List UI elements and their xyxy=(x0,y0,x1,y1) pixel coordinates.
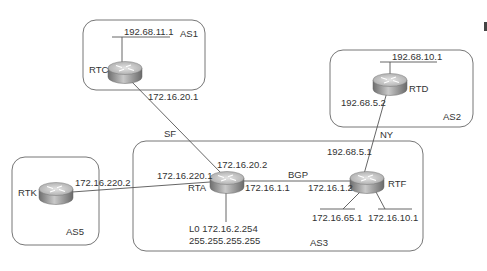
router-rtf-label: RTF xyxy=(388,179,406,189)
rtk-interface-ip: 172.16.220.2 xyxy=(75,178,130,188)
as5-label: AS5 xyxy=(66,227,84,237)
router-rtc-label: RTC xyxy=(89,65,108,75)
rtf-ny-interface-ip: 192.68.5.1 xyxy=(327,147,372,157)
network-diagram: AS1 AS2 AS3 AS5 RTC RTD RTA RTF RTK 192.… xyxy=(0,0,487,271)
router-rta-icon xyxy=(210,172,244,194)
as3-label: AS3 xyxy=(310,238,328,248)
router-rtd-label: RTD xyxy=(409,84,428,94)
link-bgp-label: BGP xyxy=(288,170,308,180)
router-rtd-icon xyxy=(373,74,407,96)
rta-bgp-interface-ip: 172.16.1.1 xyxy=(245,183,290,193)
router-rtk-label: RTK xyxy=(18,188,37,198)
rtf-bgp-interface-ip: 172.16.1.2 xyxy=(308,183,353,193)
router-rtf-icon xyxy=(350,172,384,194)
rta-rtk-interface-ip: 172.16.220.1 xyxy=(157,171,212,181)
rtf-lan2-address: 172.16.10.1 xyxy=(368,213,418,223)
rtf-lan1-drop xyxy=(343,192,360,209)
rtd-interface-ip: 192.68.5.2 xyxy=(341,98,386,108)
router-rtk-icon xyxy=(39,183,73,205)
rtf-lan2-drop xyxy=(376,192,385,209)
rta-sf-interface-ip: 172.16.20.2 xyxy=(217,160,267,170)
as2-label: AS2 xyxy=(443,112,461,122)
rtc-lan-address: 192.68.11.1 xyxy=(124,27,173,37)
rtc-interface-ip: 172.16.20.1 xyxy=(148,92,198,102)
rta-loopback-address: L0 172.16.2.254 xyxy=(189,224,258,234)
as3-boundary xyxy=(133,141,423,251)
rtd-lan-address: 192.68.10.1 xyxy=(392,52,442,62)
link-ny-label: NY xyxy=(380,130,393,140)
link-sf-label: SF xyxy=(164,129,176,139)
rtf-lan1-address: 172.16.65.1 xyxy=(312,213,362,223)
router-rtc-icon xyxy=(108,62,142,84)
rta-loopback-mask: 255.255.255.255 xyxy=(189,236,260,246)
as1-label: AS1 xyxy=(180,29,198,39)
router-rta-label: RTA xyxy=(188,183,206,193)
